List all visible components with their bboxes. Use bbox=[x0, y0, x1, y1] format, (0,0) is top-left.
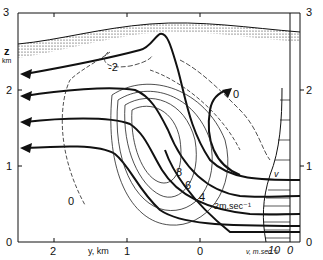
left-axis-unit: km bbox=[2, 57, 11, 64]
velocity-tick-0: 0 bbox=[287, 245, 293, 256]
contour-label-2: 2m.sec⁻¹ bbox=[214, 202, 251, 211]
contour-label-0-right: 0 bbox=[233, 89, 239, 100]
velocity-tick-10: 10 bbox=[268, 245, 280, 256]
bottom-axis-label: y, km bbox=[88, 247, 109, 256]
velocity-profile bbox=[263, 88, 290, 242]
contour-label-4: 4 bbox=[199, 192, 205, 203]
left-tick-2: 2 bbox=[6, 85, 12, 96]
contour-label-8: 8 bbox=[176, 167, 182, 178]
left-tick-3: 3 bbox=[3, 7, 9, 18]
bottom-tick-0: 0 bbox=[197, 246, 203, 257]
bottom-tick-1: 1 bbox=[124, 246, 130, 257]
profile-label: v bbox=[274, 170, 279, 179]
contour-label-neg2: -2 bbox=[108, 62, 118, 73]
streamlines bbox=[25, 34, 300, 232]
right-tick-3: 3 bbox=[306, 7, 312, 18]
diagram-canvas bbox=[0, 0, 323, 260]
right-tick-0: 0 bbox=[306, 237, 312, 248]
bottom-tick-2: 2 bbox=[50, 246, 56, 257]
left-tick-1: 1 bbox=[6, 161, 12, 172]
contour-label-0-left: 0 bbox=[68, 196, 74, 207]
right-tick-2: 2 bbox=[306, 85, 312, 96]
left-axis-label: z bbox=[4, 46, 10, 57]
isotachs bbox=[62, 52, 270, 225]
diagram-figure: 3 z km 2 1 0 3 2 1 0 2 y, km 1 0 v, m.se… bbox=[0, 0, 323, 260]
contour-label-6: 6 bbox=[185, 180, 191, 191]
left-tick-0: 0 bbox=[6, 237, 12, 248]
right-tick-1: 1 bbox=[306, 161, 312, 172]
arrowheads bbox=[20, 69, 232, 153]
